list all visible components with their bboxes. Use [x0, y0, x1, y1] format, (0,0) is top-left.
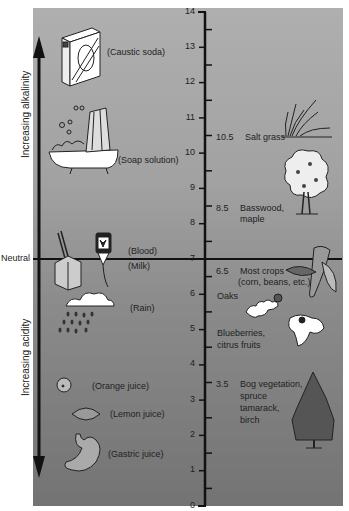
plant-spruce: spruce [240, 391, 267, 401]
neutral-label: Neutral [1, 253, 30, 263]
substance-blood: (Blood) [128, 246, 157, 256]
tick-13: 13 [181, 41, 195, 51]
bathtub-icon [49, 106, 118, 174]
plant-value-salt-grass: 10.5 [216, 132, 234, 142]
substance-lemon-juice: (Lemon juice) [110, 409, 165, 419]
tick-2: 2 [181, 429, 195, 439]
tick-3: 3 [181, 394, 195, 404]
alkalinity-acidity-arrow [33, 36, 45, 478]
plant-basswood: Basswood, [240, 203, 284, 213]
rain-cloud-icon [59, 293, 115, 334]
plant-maple: maple [240, 214, 265, 224]
plant-blueberries: Blueberries, [217, 328, 265, 338]
acidity-label: Increasing acidity [20, 319, 31, 396]
substance-milk: (Milk) [128, 261, 150, 271]
milk-carton-icon [55, 231, 81, 290]
plant-salt-grass: Salt grass [245, 132, 285, 142]
tick-12: 12 [181, 76, 195, 86]
caustic-soda-box-icon [62, 28, 100, 86]
grass-icon [282, 100, 332, 137]
orange-icon [57, 378, 71, 392]
tick-7: 7 [181, 253, 195, 263]
plant-most-crops: Most crops [240, 266, 284, 276]
substance-gastric-juice: (Gastric juice) [108, 449, 164, 459]
oak-leaf-icon [246, 294, 282, 317]
plant-value-basswood: 8.5 [216, 203, 229, 213]
stomach-icon [65, 434, 100, 471]
lemon-icon [72, 408, 100, 420]
plant-tamarack: tamarack, [240, 403, 280, 413]
diagram-graphics [0, 0, 349, 511]
tick-9: 9 [181, 182, 195, 192]
plant-value-most-crops: 6.5 [216, 266, 229, 276]
substance-orange-juice: (Orange juice) [92, 381, 149, 391]
substance-caustic-soda: (Caustic soda) [107, 47, 165, 57]
deciduous-tree-icon [285, 150, 329, 214]
plant-citrus: citrus fruits [217, 340, 261, 350]
tick-5: 5 [181, 323, 195, 333]
plant-value-bog: 3.5 [216, 379, 229, 389]
tick-10: 10 [181, 147, 195, 157]
tick-11: 11 [181, 112, 195, 122]
tick-4: 4 [181, 358, 195, 368]
tick-8: 8 [181, 217, 195, 227]
leaf-icon [289, 315, 324, 346]
plant-oaks: Oaks [217, 291, 238, 301]
alkalinity-label: Increasing alkalinity [20, 71, 31, 158]
plant-most-crops-detail: (corn, beans, etc.) [238, 277, 311, 287]
corn-icon [286, 246, 336, 297]
plant-birch: birch [240, 415, 260, 425]
tick-0: 0 [181, 500, 195, 510]
tick-6: 6 [181, 288, 195, 298]
tick-14: 14 [181, 6, 195, 16]
tick-1: 1 [181, 464, 195, 474]
substance-rain: (Rain) [130, 303, 155, 313]
substance-soap-solution: (Soap solution) [118, 155, 179, 165]
plant-bog: Bog vegetation, [240, 379, 303, 389]
